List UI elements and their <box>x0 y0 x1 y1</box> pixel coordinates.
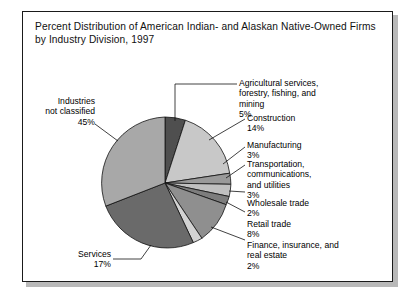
leader-line-finance <box>211 227 245 240</box>
callout-manufacturing: Manufacturing 3% <box>247 140 377 161</box>
leader-line-construction <box>209 119 245 140</box>
callout-construction: Construction 14% <box>247 113 377 134</box>
callout-not-classified: Industries not classified 45% <box>23 96 95 127</box>
leader-line-agricultural <box>175 84 237 121</box>
figure-frame: Percent Distribution of American Indian-… <box>22 11 393 282</box>
leader-line-manufacturing <box>223 147 245 164</box>
callout-wholesale: Wholesale trade 2% <box>247 198 377 219</box>
pie-slices <box>102 117 231 248</box>
figure-root: Percent Distribution of American Indian-… <box>0 0 417 302</box>
callout-services: Services 17% <box>33 249 111 270</box>
leader-line-wholesale <box>229 191 245 192</box>
leader-line-retail <box>226 202 245 212</box>
leader-line-services <box>113 245 151 259</box>
callout-retail: Retail trade 8% <box>247 219 377 240</box>
callout-transportation: Transportation, communications, and util… <box>247 159 377 201</box>
pie-chart: Agricultural services, forestry, fishing… <box>23 12 394 283</box>
leader-line-not-classified <box>95 124 118 141</box>
callout-finance: Finance, insurance, and real estate 2% <box>247 240 383 271</box>
